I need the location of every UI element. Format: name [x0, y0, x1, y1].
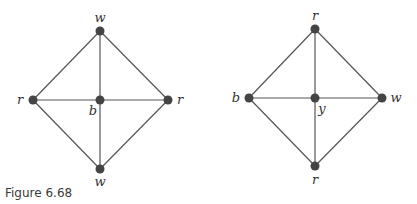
vertex-label-bottom: r [312, 172, 319, 187]
left-graph: wrbrw [17, 10, 184, 189]
vertex-bottom [96, 165, 105, 174]
graph-coloring-figure: wrbrwrbywr Figure 6.68 [0, 0, 417, 204]
vertex-right [164, 96, 173, 105]
vertex-label-right: w [390, 90, 401, 105]
edge-bottom-right [100, 100, 168, 169]
figure-caption: Figure 6.68 [5, 186, 72, 200]
edge-top-left [249, 29, 315, 98]
vertex-label-left: r [17, 92, 24, 107]
vertex-label-center: b [89, 103, 97, 118]
vertex-label-right: r [177, 92, 184, 107]
vertex-left [29, 96, 38, 105]
vertex-label-top: r [312, 8, 319, 23]
vertex-label-left: b [232, 90, 240, 105]
vertex-label-top: w [94, 10, 105, 25]
right-graph: rbywr [232, 8, 402, 187]
vertex-top [96, 27, 105, 36]
vertex-label-center: y [317, 101, 326, 116]
edge-top-right [315, 29, 382, 98]
vertex-left [245, 94, 254, 103]
vertex-right [378, 94, 387, 103]
edge-top-left [33, 31, 100, 100]
vertex-top [311, 25, 320, 34]
edge-bottom-left [249, 98, 315, 166]
vertex-bottom [311, 162, 320, 171]
vertex-label-bottom: w [94, 174, 105, 189]
edge-top-right [100, 31, 168, 100]
